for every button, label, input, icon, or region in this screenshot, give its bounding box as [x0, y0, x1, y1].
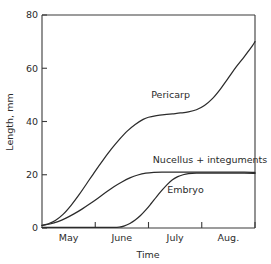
x-tick-label: July — [166, 232, 184, 243]
y-tick-label: 60 — [26, 63, 38, 74]
x-axis-ticks: MayJuneJulyAug. — [59, 222, 255, 243]
y-tick-label: 80 — [26, 9, 38, 20]
y-tick-label: 20 — [26, 169, 38, 180]
y-axis-title: Length, mm — [4, 93, 15, 150]
series-labels: PericarpNucellus + integumentsEmbryo — [151, 89, 267, 196]
y-tick-label: 0 — [32, 222, 38, 233]
series-label-pericarp: Pericarp — [151, 89, 190, 100]
y-tick-label: 40 — [26, 116, 38, 127]
plot-frame — [42, 15, 255, 228]
series-curve — [42, 172, 255, 225]
series-label-nucellus-integuments: Nucellus + integuments — [153, 154, 268, 165]
x-tick-label: Aug. — [218, 232, 240, 243]
x-tick-label: May — [59, 232, 79, 243]
series-curve — [42, 173, 255, 227]
line-chart: 020406080 MayJuneJulyAug. PericarpNucell… — [0, 0, 271, 264]
data-curves — [42, 42, 255, 228]
series-label-embryo: Embryo — [167, 184, 204, 195]
x-tick-label: June — [111, 232, 133, 243]
x-axis-title: Time — [135, 249, 159, 260]
y-axis-ticks: 020406080 — [26, 9, 47, 233]
series-curve — [42, 42, 255, 226]
chart-figure: 020406080 MayJuneJulyAug. PericarpNucell… — [0, 0, 271, 264]
